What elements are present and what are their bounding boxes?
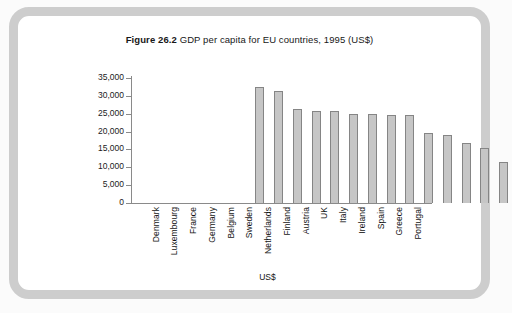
figure-caption: GDP per capita for EU countries, 1995 (U…: [180, 34, 374, 45]
x-axis-category-label: Greece: [394, 207, 404, 235]
x-axis-category-label: Portugal: [413, 207, 423, 239]
y-axis-tick-mark: [126, 114, 131, 115]
y-axis-tick-mark: [126, 203, 131, 204]
y-axis-tick-label: 15,000: [98, 143, 124, 153]
bar: [499, 162, 508, 203]
bar: [424, 133, 433, 203]
x-axis-category-label: Luxembourg: [169, 207, 179, 255]
x-axis-category-label: Sweden: [244, 207, 254, 238]
x-axis-label: US$: [18, 272, 481, 282]
x-axis-category-label: UK: [319, 207, 329, 219]
bar: [312, 111, 321, 203]
x-axis-category-label: Belgium: [226, 207, 236, 238]
bar: [293, 109, 302, 203]
x-axis-category-label: Italy: [338, 207, 348, 223]
figure-title: Figure 26.2 GDP per capita for EU countr…: [18, 34, 481, 45]
bar: [405, 115, 414, 203]
bar-chart-plot-area: [131, 78, 431, 203]
x-axis-category-label: France: [188, 207, 198, 234]
x-axis-category-label: Germany: [207, 207, 217, 243]
y-axis-tick-mark: [126, 185, 131, 186]
y-axis-tick-mark: [126, 167, 131, 168]
x-axis-category-label: Netherlands: [263, 207, 273, 254]
y-axis-tick-label: 25,000: [98, 108, 124, 118]
y-axis-tick-label: 35,000: [98, 72, 124, 82]
y-axis-tick-mark: [126, 78, 131, 79]
bar: [387, 115, 396, 203]
x-axis-category-label: Denmark: [151, 207, 161, 242]
y-axis-tick-mark: [126, 132, 131, 133]
figure-frame: Figure 26.2 GDP per capita for EU countr…: [9, 7, 490, 299]
bar: [462, 143, 471, 203]
bar: [480, 148, 489, 203]
x-axis-line: [131, 203, 432, 204]
figure-number: Figure 26.2: [126, 34, 177, 45]
bar: [443, 135, 452, 203]
y-axis-tick-label: 10,000: [98, 161, 124, 171]
y-axis-tick-label: 30,000: [98, 90, 124, 100]
y-axis-tick-mark: [126, 96, 131, 97]
bar: [255, 87, 264, 203]
x-axis-category-label: Spain: [376, 207, 386, 229]
bar: [349, 114, 358, 203]
x-axis-category-label: Ireland: [357, 207, 367, 234]
bar: [368, 114, 377, 203]
scanned-page: Figure 26.2 GDP per capita for EU countr…: [0, 0, 512, 313]
y-axis-tick-label: 5,000: [103, 179, 124, 189]
y-axis-tick-label: 0: [119, 197, 124, 207]
y-axis-tick-mark: [126, 149, 131, 150]
bar: [274, 91, 283, 203]
x-axis-category-label: Austria: [301, 207, 311, 234]
y-axis-tick-label: 20,000: [98, 126, 124, 136]
bar: [330, 111, 339, 203]
x-axis-category-label: Finland: [282, 207, 292, 236]
